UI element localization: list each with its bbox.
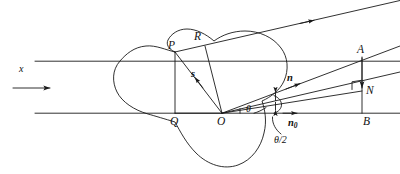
segment-or <box>205 46 222 113</box>
diagram-canvas: x P R s Q O n θ n0 θ/2 A N B <box>0 0 400 174</box>
point-label-o: O <box>217 116 225 128</box>
vector-label-n: n <box>287 73 293 84</box>
point-label-n: N <box>366 85 374 97</box>
theta-half-leader <box>272 117 281 134</box>
point-label-a: A <box>357 44 364 56</box>
segment-nb-hypotenuse <box>222 91 362 113</box>
vector-label-n0: n0 <box>288 118 298 130</box>
vector-n0-subscript: 0 <box>294 121 298 130</box>
vector-n-arrow <box>286 84 300 89</box>
scattered-wavefront-upper <box>175 1 400 53</box>
wavefront-upper-arrow <box>300 20 314 23</box>
angle-label-theta-half: θ/2 <box>274 135 287 145</box>
axis-label-x: x <box>19 64 23 74</box>
point-label-q: Q <box>170 116 178 128</box>
angle-label-theta: θ <box>246 104 251 114</box>
vector-label-s: s <box>191 69 195 80</box>
diagram-vector-layer <box>0 0 400 174</box>
point-label-p: P <box>168 40 175 52</box>
point-label-b: B <box>363 116 370 128</box>
point-label-r: R <box>194 31 201 43</box>
vector-s-arrow <box>195 78 203 89</box>
